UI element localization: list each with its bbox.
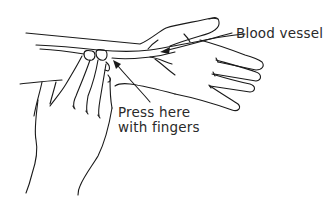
forearm-vein-line-2: [40, 49, 84, 54]
patient-hand-lower: [115, 84, 175, 94]
examiner-finger-shaft-4: [99, 64, 106, 116]
examiner-back-hand-thumb: [34, 82, 42, 116]
press-here-line-2: with fingers: [118, 120, 200, 135]
examiner-fingertip-1: [84, 50, 95, 60]
press-here-line-1: Press here: [118, 105, 200, 120]
thumb-nail: [209, 18, 218, 19]
examiner-fingertip-2: [96, 49, 107, 60]
examiner-back-hand-crease: [50, 82, 56, 104]
examiner-hand-left-edge: [26, 100, 38, 193]
examiner-hand-right-edge: [78, 108, 112, 195]
blood-vessel-label: Blood vessel: [236, 26, 323, 41]
patient-hand-outline: [200, 40, 263, 70]
examiner-finger-shaft-5: [110, 78, 112, 108]
vein-branch-3: [148, 40, 158, 49]
pulse-illustration: Blood vessel Press here with fingers: [0, 0, 328, 203]
examiner-finger-shaft-3: [87, 60, 98, 112]
press-here-label: Press here with fingers: [118, 105, 200, 135]
vein-branch-1: [150, 57, 172, 64]
